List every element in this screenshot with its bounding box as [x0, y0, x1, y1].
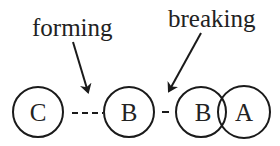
node-b-middle-label: B [121, 99, 138, 126]
forming-arrow-icon [73, 42, 88, 92]
node-c-label: C [30, 99, 47, 126]
bond-diagram: forming breaking C B B A [0, 0, 280, 146]
node-b-middle: B [104, 87, 154, 137]
breaking-label: breaking [168, 5, 256, 32]
node-b-right-label: B [195, 99, 212, 126]
breaking-arrow-icon [169, 33, 201, 91]
node-c: C [13, 87, 63, 137]
node-a-label: A [235, 99, 253, 126]
forming-label: forming [32, 14, 113, 41]
